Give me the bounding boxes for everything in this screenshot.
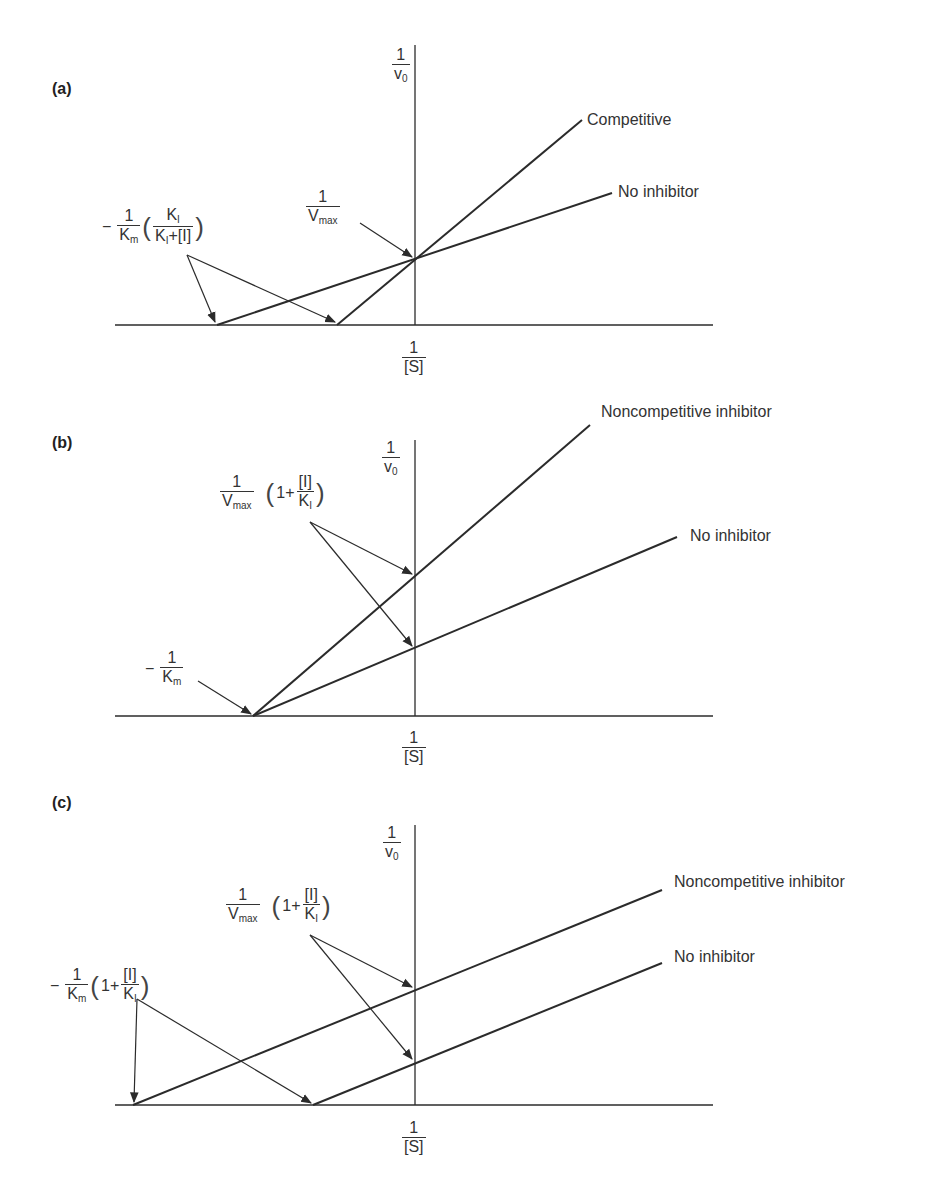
panel-b-vmax-formula: 1Vmax ( 1+ [I]KI ) [220,474,325,511]
panel-a-km-arrow-2 [187,255,335,322]
panel-b-no-inhibitor-label: No inhibitor [690,528,771,544]
panel-c-no-inhibitor-line [313,963,662,1105]
panel-a-competitive-label: Competitive [587,112,671,128]
panel-a-vmax-arrow [360,223,412,257]
panel-b-noncompetitive-label: Noncompetitive inhibitor [601,404,772,420]
panel-c-tag: (c) [52,794,72,812]
panel-a-competitive-line [337,120,582,325]
panel-c-x-axis-label: 1[S] [402,1120,426,1156]
panel-a-km-formula: − 1Km ( KIKI+[I] ) [102,207,204,246]
panel-b-x-axis-label: 1[S] [402,730,426,766]
panel-c-vmax-arrow-1 [310,935,412,987]
lineweaver-burk-diagrams [0,0,951,1189]
panel-c-km-arrow-1 [134,999,137,1102]
panel-c-noncompetitive-line [133,890,662,1105]
panel-b-vmax-arrow-1 [310,522,412,574]
panel-b-tag: (b) [52,434,72,452]
panel-a-no-inhibitor-label: No inhibitor [618,184,699,200]
panel-c-km-formula: − 1Km ( 1+ [I]KI ) [50,967,149,1004]
panel-b-no-inhibitor-line [253,537,677,716]
panel-a-km-arrow-1 [187,255,215,322]
panel-c-km-arrow-2 [137,999,311,1103]
panel-c-y-axis-label: 1v0 [383,825,401,862]
panel-a-tag: (a) [52,80,72,98]
panel-b-km-arrow [198,681,251,714]
panel-c-plot [115,825,713,1105]
panel-c-noncompetitive-label: Noncompetitive inhibitor [674,874,845,890]
panel-b-km-label: − 1Km [145,650,183,687]
panel-a-y-axis-label: 1v0 [392,47,410,84]
panel-b-vmax-arrow-2 [310,522,412,646]
panel-a-x-axis-label: 1[S] [402,340,426,376]
panel-b-plot [115,425,713,716]
panel-b-noncompetitive-line [253,425,590,716]
panel-b-y-axis-label: 1v0 [382,440,400,477]
panel-a-vmax-label: 1Vmax [306,189,340,226]
panel-c-no-inhibitor-label: No inhibitor [674,949,755,965]
panel-c-vmax-formula: 1Vmax ( 1+ [I]KI ) [226,887,331,924]
